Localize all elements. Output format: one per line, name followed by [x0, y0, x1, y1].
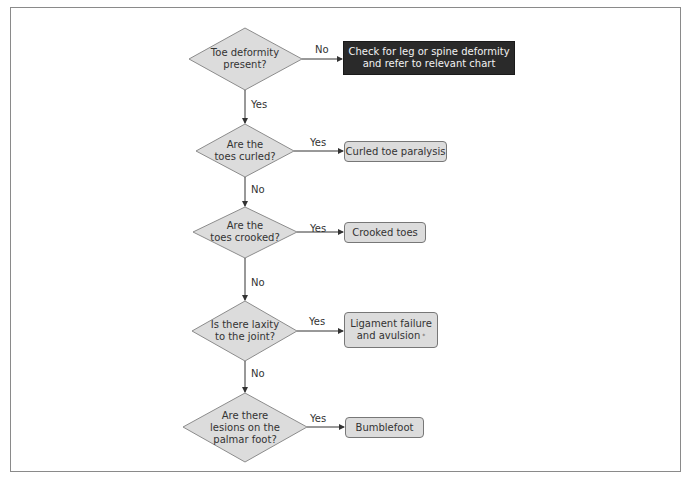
- decision-1-line-2: present?: [211, 59, 279, 71]
- outcome-1-line-1: Check for leg or spine deformity: [348, 46, 509, 58]
- decision-text-4: Is there laxity to the joint?: [211, 319, 279, 343]
- edge-label-d3-o3: Yes: [310, 223, 326, 234]
- outcome-4-line-1: Ligament failure: [350, 318, 432, 330]
- outcome-check-leg-spine: Check for leg or spine deformity and ref…: [343, 41, 515, 75]
- decision-5-line-3: palmar foot?: [210, 434, 280, 446]
- decision-text-5: Are there lesions on the palmar foot?: [210, 410, 280, 446]
- edge-label-d2-d3: No: [251, 184, 265, 195]
- edge-label-d2-o2: Yes: [310, 137, 326, 148]
- outcome-1-line-2: and refer to relevant chart: [363, 58, 496, 70]
- decision-4-line-2: to the joint?: [211, 331, 279, 343]
- outcome-4-line-2-wrap: and avulsion*: [357, 330, 426, 342]
- outcome-bumblefoot: Bumblefoot: [345, 417, 424, 438]
- decision-4-line-1: Is there laxity: [211, 319, 279, 331]
- decision-text-1: Toe deformity present?: [211, 47, 279, 71]
- outcome-ligament-failure: Ligament failure and avulsion*: [344, 312, 438, 348]
- edge-label-d3-d4: No: [251, 277, 265, 288]
- outcome-3-line-1: Crooked toes: [352, 227, 418, 239]
- outcome-4-line-2: and avulsion: [357, 330, 421, 341]
- edge-label-d4-o4: Yes: [309, 316, 325, 327]
- decision-5-line-2: lesions on the: [210, 422, 280, 434]
- outcome-2-line-1: Curled toe paralysis: [346, 146, 446, 158]
- decision-2-line-1: Are the: [214, 139, 275, 151]
- edge-label-d1-o1: No: [315, 44, 329, 55]
- decision-text-2: Are the toes curled?: [214, 139, 275, 163]
- decision-1-line-1: Toe deformity: [211, 47, 279, 59]
- decision-3-line-1: Are the: [210, 220, 279, 232]
- decision-3-line-2: toes crooked?: [210, 232, 279, 244]
- outcome-5-line-1: Bumblefoot: [356, 422, 414, 434]
- decision-5-line-1: Are there: [210, 410, 280, 422]
- edge-label-d5-o5: Yes: [310, 413, 326, 424]
- outcome-crooked-toes: Crooked toes: [344, 222, 426, 243]
- edge-label-d4-d5: No: [251, 368, 265, 379]
- edge-label-d1-d2: Yes: [251, 99, 267, 110]
- decision-2-line-2: toes curled?: [214, 151, 275, 163]
- outcome-curled-toe-paralysis: Curled toe paralysis: [344, 141, 447, 162]
- footnote-mark: *: [422, 332, 425, 339]
- decision-text-3: Are the toes crooked?: [210, 220, 279, 244]
